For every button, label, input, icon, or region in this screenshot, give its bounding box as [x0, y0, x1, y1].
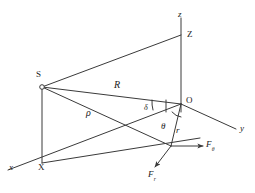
force-label-f-theta: Fθ: [206, 140, 214, 151]
segment-label-r: r: [176, 126, 180, 135]
force-label-f-r-base: F: [148, 169, 154, 179]
segment-label-R: R: [114, 80, 120, 90]
segment-s-to-z: [42, 35, 181, 87]
force-label-f-r: Fr: [148, 170, 156, 181]
angle-label-delta: δ: [144, 104, 148, 112]
figure-canvas: z y x Z S O X R ρ r δ θ Fθ Fr: [0, 0, 255, 193]
force-label-f-r-subscript: r: [154, 176, 156, 182]
segment-R-s-to-o: [42, 87, 181, 104]
point-label-O: O: [186, 96, 193, 105]
axis-y-line: [181, 104, 236, 129]
segment-label-rho: ρ: [86, 108, 91, 118]
force-label-f-theta-subscript: θ: [212, 146, 215, 152]
segment-rho-s-to-p: [42, 87, 171, 146]
segment-plane-edge-x-to-p: [42, 138, 200, 163]
force-label-f-theta-base: F: [206, 139, 212, 149]
point-label-Z: Z: [187, 30, 193, 39]
axis-label-x: x: [9, 163, 13, 172]
point-label-X: X: [38, 163, 45, 172]
point-label-S: S: [36, 70, 41, 79]
point-marker-s: [40, 85, 45, 90]
angle-arc-theta: [172, 112, 181, 117]
angle-arc-delta: [152, 100, 153, 110]
angle-label-theta: θ: [161, 122, 165, 131]
axis-x-line: [8, 104, 181, 170]
force-vector-f-r: [155, 146, 171, 167]
axis-label-z: z: [178, 10, 182, 19]
axis-label-y: y: [240, 124, 244, 133]
